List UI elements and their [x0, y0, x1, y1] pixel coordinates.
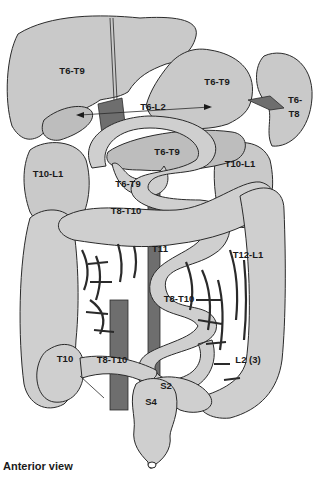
label-liver: T6-T9	[59, 66, 84, 76]
label-rectum: S4	[145, 397, 157, 407]
view-caption: Anterior view	[3, 460, 73, 472]
label-ileum: T8-T10	[97, 355, 128, 365]
label-duodenum: T6-T9	[115, 179, 140, 189]
label-small-intestine-upper: T8-T10	[111, 206, 142, 216]
label-s2: S2	[160, 381, 172, 391]
referred-pain-anatomy-diagram: T6-T9 T6-T9 T6- T8 T6-L2 T6-T9 T6-T9 T10…	[0, 0, 324, 484]
label-sigmoid: L2 (3)	[235, 355, 260, 365]
label-spleen-2: T8	[288, 109, 299, 119]
label-transverse-colon: T11	[152, 244, 168, 254]
transverse-colon	[58, 182, 274, 247]
label-right-kidney: T10-L1	[33, 169, 64, 179]
label-arrow: T6-L2	[140, 102, 165, 112]
rectum	[132, 379, 177, 469]
organ-illustration	[0, 0, 324, 484]
label-left-kidney: T10-L1	[225, 159, 256, 169]
label-cecum: T10	[57, 354, 73, 364]
label-small-intestine-mid: T8-T10	[164, 294, 195, 304]
label-stomach: T6-T9	[204, 77, 229, 87]
label-descending-colon: T12-L1	[233, 250, 264, 260]
label-spleen-1: T6-	[288, 95, 302, 105]
label-pancreas: T6-T9	[154, 147, 179, 157]
